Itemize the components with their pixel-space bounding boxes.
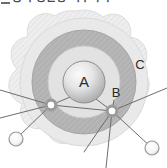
node-bottom-left-open [9, 132, 23, 146]
label-A: A [79, 73, 89, 90]
node-right-junction-B [108, 107, 116, 115]
node-left-junction [47, 101, 55, 109]
label-B: B [112, 85, 121, 100]
label-C: C [135, 57, 144, 72]
figure-root: 중 수능완성 지구과학 [0, 0, 167, 168]
concentric-shell-diagram: A B C [0, 0, 167, 168]
node-bottom-right-open [145, 141, 159, 155]
